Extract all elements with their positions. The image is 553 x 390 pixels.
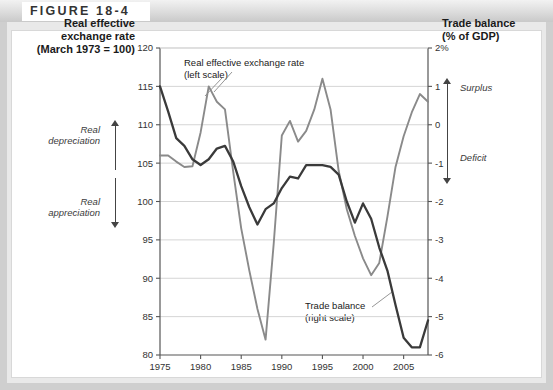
svg-text:1975: 1975 bbox=[149, 361, 170, 372]
svg-text:-4: -4 bbox=[435, 273, 443, 284]
svg-text:105: 105 bbox=[137, 158, 153, 169]
figure-root: FIGURE 18-4 Real effectiveexchange rate(… bbox=[0, 0, 553, 390]
svg-text:90: 90 bbox=[142, 273, 153, 284]
chart-svg: 80859095100105110115120-6-5-4-3-2-1012%1… bbox=[0, 0, 553, 390]
svg-text:-2: -2 bbox=[435, 196, 443, 207]
svg-text:1995: 1995 bbox=[312, 361, 333, 372]
svg-text:100: 100 bbox=[137, 196, 153, 207]
svg-text:80: 80 bbox=[142, 349, 153, 360]
svg-text:2005: 2005 bbox=[393, 361, 414, 372]
svg-text:1: 1 bbox=[435, 81, 440, 92]
svg-text:-3: -3 bbox=[435, 234, 443, 245]
svg-text:110: 110 bbox=[138, 119, 153, 130]
plot-area: 80859095100105110115120-6-5-4-3-2-1012%1… bbox=[0, 0, 553, 390]
svg-text:85: 85 bbox=[142, 311, 153, 322]
svg-text:1985: 1985 bbox=[231, 361, 252, 372]
svg-text:-6: -6 bbox=[435, 349, 443, 360]
leader-lines bbox=[205, 72, 392, 307]
svg-text:-1: -1 bbox=[435, 158, 443, 169]
svg-text:115: 115 bbox=[138, 81, 153, 92]
series-lines bbox=[160, 79, 428, 348]
tick-marks bbox=[156, 48, 432, 359]
svg-text:95: 95 bbox=[142, 234, 153, 245]
tick-labels: 80859095100105110115120-6-5-4-3-2-1012%1… bbox=[137, 42, 449, 372]
svg-text:-5: -5 bbox=[435, 311, 443, 322]
svg-text:2000: 2000 bbox=[352, 361, 373, 372]
svg-text:1990: 1990 bbox=[271, 361, 292, 372]
svg-text:2%: 2% bbox=[435, 42, 449, 53]
svg-text:1980: 1980 bbox=[190, 361, 211, 372]
svg-text:120: 120 bbox=[137, 42, 153, 53]
svg-text:0: 0 bbox=[435, 119, 440, 130]
